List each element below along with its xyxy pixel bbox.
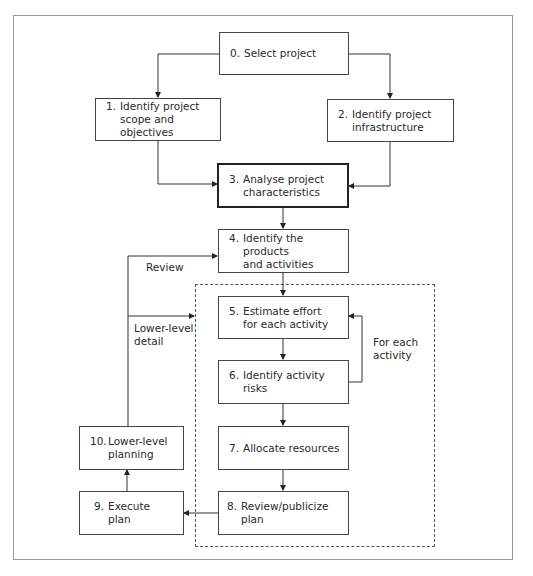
edge-label-lower-level-detail: Lower-level detail [134, 322, 194, 348]
step-text: Identify the products and activities [243, 232, 340, 271]
step-8-review-publicize: 8.Review/publicize plan [218, 491, 349, 535]
step-number: 10. [90, 435, 108, 461]
step-text: Identify activity risks [243, 369, 325, 395]
step-3-analyse-characteristics: 3.Analyse project characteristics [217, 163, 349, 208]
step-6-identify-risks: 6.Identify activity risks [218, 360, 349, 404]
step-9-execute-plan: 9.Execute plan [79, 491, 184, 535]
step-number: 5. [229, 305, 243, 331]
step-text: Lower-level planning [108, 435, 168, 461]
step-number: 4. [229, 232, 243, 271]
step-text: Allocate resources [243, 442, 339, 455]
connector-lines [0, 0, 533, 576]
step-0-select-project: 0.Select project [219, 32, 349, 75]
step-number: 6. [229, 369, 243, 395]
step-1-identify-scope: 1.Identify project scope and objectives [95, 98, 221, 141]
step-text: Identify project scope and objectives [120, 100, 212, 139]
step-5-estimate-effort: 5.Estimate effort for each activity [218, 296, 349, 339]
step-text: Identify project infrastructure [352, 108, 431, 134]
step-number: 0. [230, 47, 244, 60]
step-number: 2. [338, 108, 352, 134]
edge-label-for-each-activity: For each activity [373, 336, 418, 362]
step-2-identify-infrastructure: 2.Identify project infrastructure [327, 99, 454, 142]
step-text: Analyse project characteristics [243, 173, 324, 199]
step-number: 7. [229, 442, 243, 455]
step-7-allocate-resources: 7.Allocate resources [218, 426, 349, 470]
step-text: Select project [244, 47, 316, 60]
step-text: Execute plan [108, 500, 175, 526]
step-number: 9. [94, 500, 108, 526]
step-4-identify-products: 4.Identify the products and activities [218, 229, 349, 273]
edge-label-review: Review [146, 261, 183, 274]
step-number: 1. [106, 100, 120, 139]
step-text: Estimate effort for each activity [243, 305, 328, 331]
step-number: 3. [229, 173, 243, 199]
step-10-lower-level-planning: 10.Lower-level planning [79, 426, 184, 470]
step-text: Review/publicize plan [241, 500, 340, 526]
step-number: 8. [227, 500, 241, 526]
